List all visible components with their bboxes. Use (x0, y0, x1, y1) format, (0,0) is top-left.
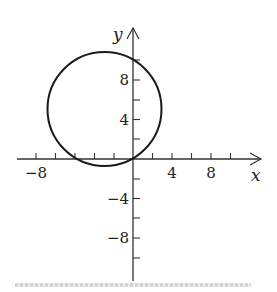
x-axis-label: x (251, 165, 261, 185)
y-axis-label: y (112, 24, 123, 44)
footer-band (15, 283, 251, 287)
y-tick-label-8: 8 (119, 71, 129, 89)
y-tick-label-neg4: −4 (107, 190, 129, 208)
y-tick-label-neg8: −8 (107, 229, 129, 247)
y-tick-label-4: 4 (119, 111, 129, 129)
x-tick-label-8: 8 (206, 164, 216, 182)
coordinate-plane: −8 4 8 8 4 −4 −8 x y (0, 0, 277, 292)
circle-curve (48, 52, 162, 166)
x-tick-label-4: 4 (167, 164, 177, 182)
x-tick-label-neg8: −8 (25, 164, 47, 182)
